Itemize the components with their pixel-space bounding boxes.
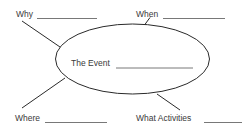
label-when: When xyxy=(136,9,158,19)
connector-why xyxy=(22,21,60,47)
label-the-event: The Event xyxy=(71,58,110,68)
event-web-diagram: Why When The Event Where What Activities xyxy=(0,0,247,127)
label-why: Why xyxy=(16,9,34,19)
connector-what-activities xyxy=(157,94,180,110)
connector-where xyxy=(22,78,65,108)
label-where: Where xyxy=(15,113,40,123)
label-what-activities: What Activities xyxy=(136,113,191,123)
